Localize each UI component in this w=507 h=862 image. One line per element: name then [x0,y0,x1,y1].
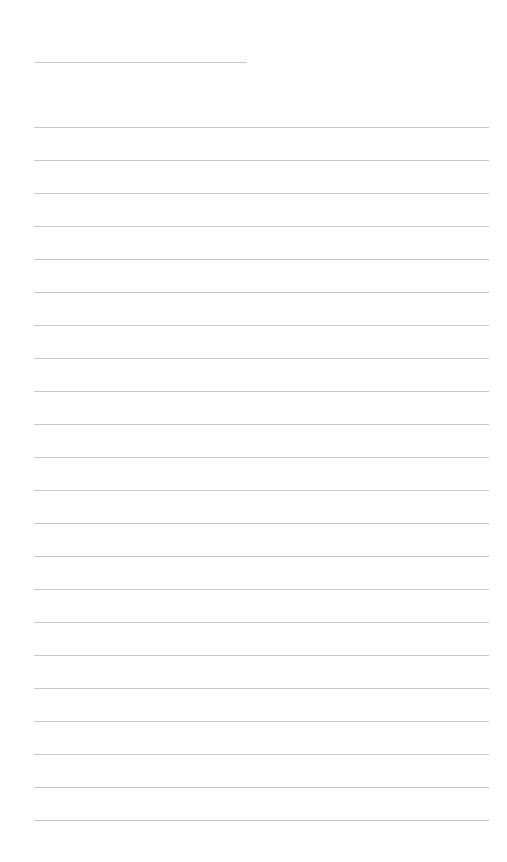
writing-line [34,820,489,821]
title-line [35,62,247,63]
writing-line [34,622,489,623]
writing-line [34,193,489,194]
writing-line [34,490,489,491]
writing-line [34,226,489,227]
writing-line [34,655,489,656]
writing-line [34,688,489,689]
writing-line [34,325,489,326]
writing-line [34,358,489,359]
writing-line [34,523,489,524]
writing-line [34,292,489,293]
writing-line [34,589,489,590]
writing-line [34,754,489,755]
writing-line [34,787,489,788]
writing-line [34,127,489,128]
writing-line [34,457,489,458]
writing-line [34,259,489,260]
writing-line [34,721,489,722]
writing-line [34,160,489,161]
writing-line [34,424,489,425]
writing-line [34,556,489,557]
writing-line [34,391,489,392]
